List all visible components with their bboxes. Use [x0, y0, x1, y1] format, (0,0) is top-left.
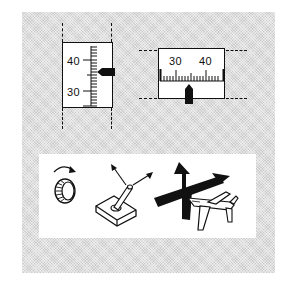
guide-line-right-top: [111, 23, 112, 42]
right-side-pointer-icon: [97, 67, 117, 77]
guide-line-left-top: [62, 23, 63, 42]
joystick-icon: [94, 164, 159, 226]
guide-line-left-bottom: [62, 108, 63, 129]
guide-line-bottom-right: [226, 98, 247, 99]
controls-card: [39, 154, 256, 238]
guide-line-bottom-left: [139, 98, 157, 99]
guide-line-top-right: [226, 50, 247, 51]
bottom-pointer-icon: [184, 84, 194, 106]
guide-line-right-bottom: [111, 108, 112, 129]
guide-line-top-left: [139, 50, 157, 51]
rotary-knob-icon: [51, 164, 81, 206]
aircraft-axes-icon: [154, 162, 244, 232]
